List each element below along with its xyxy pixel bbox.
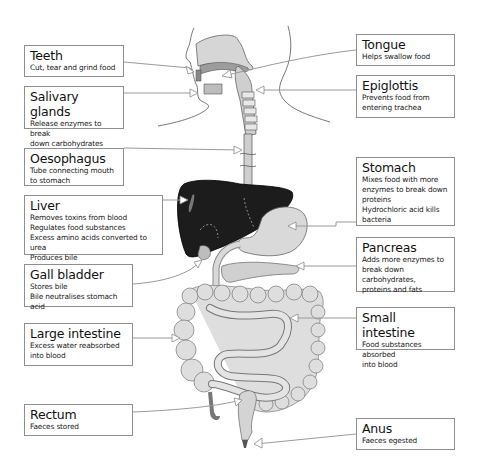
label-title: Pancreas — [362, 240, 449, 255]
label-large-intestine: Large intestine Excess water reabsorbed … — [24, 323, 133, 366]
label-title: Gall bladder — [30, 267, 127, 282]
label-oesophagus: Oesophagus Tube connecting mouth to stom… — [24, 148, 124, 186]
label-title: Large intestine — [30, 326, 127, 341]
label-stomach: Stomach Mixes food with more enzymes to … — [356, 157, 455, 226]
label-description: Faeces egested — [362, 436, 449, 446]
label-anus: Anus Faeces egested — [356, 418, 455, 450]
label-description: Tube connecting mouth — [30, 166, 118, 176]
label-description: enzymes to break down — [362, 185, 449, 195]
rectum-shape — [238, 391, 256, 440]
label-description: to stomach — [30, 176, 118, 186]
label-title: Oesophagus — [30, 151, 118, 166]
label-title: Epiglottis — [362, 78, 449, 93]
label-description: Excess water reabsorbed — [30, 341, 127, 351]
label-description: Helps swallow food — [362, 52, 449, 62]
label-description: Removes toxins from blood — [30, 213, 157, 223]
label-description: bacteria — [362, 215, 449, 225]
label-description: Release enzymes to break — [30, 119, 118, 139]
label-liver: Liver Removes toxins from blood Regulate… — [24, 195, 163, 255]
label-title: Teeth — [30, 48, 118, 63]
label-title: Anus — [362, 421, 449, 436]
label-description: Hydrochloric acid kills — [362, 205, 449, 215]
label-epiglottis: Epiglottis Prevents food from entering t… — [356, 75, 455, 118]
anus-shape — [242, 440, 248, 448]
label-description: Food substances absorbed — [362, 340, 449, 360]
label-description: Produces bile — [30, 253, 157, 263]
label-description: Stores bile — [30, 282, 127, 292]
label-description: proteins — [362, 195, 449, 205]
label-description: into blood — [30, 351, 127, 361]
label-pancreas: Pancreas Adds more enzymes to break down… — [356, 237, 455, 292]
label-tongue: Tongue Helps swallow food — [356, 34, 455, 66]
pancreas-shape — [221, 262, 298, 282]
gall-bladder-shape — [198, 245, 210, 259]
label-description: Regulates food substances — [30, 223, 157, 233]
label-small-intestine: Small intestine Food substances absorbed… — [356, 307, 455, 350]
label-title: Rectum — [30, 407, 127, 422]
label-rectum: Rectum Faeces stored — [24, 404, 133, 436]
label-description: Adds more enzymes to — [362, 255, 449, 265]
label-description: proteins and fats — [362, 285, 449, 295]
label-description: into blood — [362, 360, 449, 370]
label-title: Liver — [30, 198, 157, 213]
label-description: break down carbohydrates, — [362, 265, 449, 285]
label-title: Salivary glands — [30, 89, 118, 119]
label-gall-bladder: Gall bladder Stores bile Bile neutralise… — [24, 264, 133, 307]
label-teeth: Teeth Cut, tear and grind food — [24, 45, 124, 77]
label-description: Prevents food from — [362, 93, 449, 103]
teeth-shape — [196, 70, 201, 81]
label-description: Faeces stored — [30, 422, 127, 432]
oesophagus-tube — [244, 134, 252, 190]
label-description: Bile neutralises stomach acid — [30, 292, 127, 312]
label-description: Cut, tear and grind food — [30, 63, 118, 73]
label-title: Stomach — [362, 160, 449, 175]
label-description: Mixes food with more — [362, 175, 449, 185]
label-title: Small intestine — [362, 310, 449, 340]
salivary-glands-shape — [204, 84, 222, 94]
label-title: Tongue — [362, 37, 449, 52]
label-description: Excess amino acids converted to urea — [30, 233, 157, 253]
label-description: entering trachea — [362, 103, 449, 113]
label-salivary-glands: Salivary glands Release enzymes to break… — [24, 86, 124, 129]
